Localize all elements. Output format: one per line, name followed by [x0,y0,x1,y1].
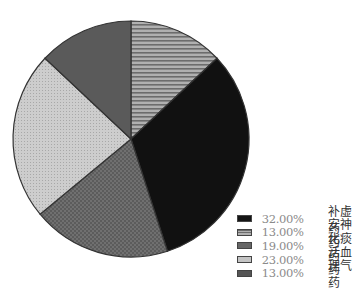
legend-swatch [237,242,252,249]
legend-swatch [237,270,252,277]
legend-item-liqi: 13.00% 理气药 [237,266,363,280]
legend-percent: 32.00% [262,212,318,226]
legend-swatch [237,256,252,263]
legend-percent: 13.00% [262,225,318,239]
legend-swatch [237,229,252,236]
legend-percent: 23.00% [262,253,318,267]
legend-swatch [237,215,252,222]
legend-percent: 13.00% [262,266,318,280]
legend-label: 理气药 [328,256,363,290]
chart-legend: 32.00% 补虚药 13.00% 安神药 19.00% 化痰药 23.00% … [237,212,363,280]
legend-percent: 19.00% [262,239,318,253]
